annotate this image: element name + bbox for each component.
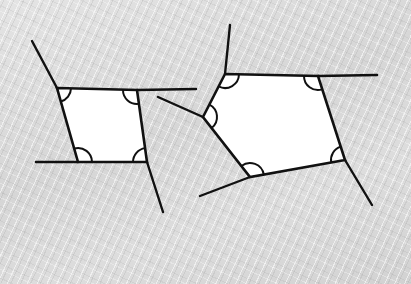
right-fig-right-down-ray (345, 160, 372, 205)
right-fig-bottom-left-ray (200, 177, 250, 196)
geometry-figure-canvas (0, 0, 411, 284)
right-fig-top-right-ray (318, 75, 377, 76)
left-parallelogram-group (32, 41, 196, 212)
left-fig-upper-left-ray (32, 41, 57, 88)
left-fig-upper-right-ray (137, 89, 196, 90)
right-pentagon-fill (203, 74, 345, 177)
left-parallelogram-fill (57, 88, 147, 162)
right-fig-left-upper-ray (158, 97, 203, 117)
right-pentagon-group (158, 25, 377, 205)
geometry-svg (0, 0, 411, 284)
right-fig-top-left-up-ray (225, 25, 230, 74)
left-fig-lower-right-ray (147, 162, 163, 212)
